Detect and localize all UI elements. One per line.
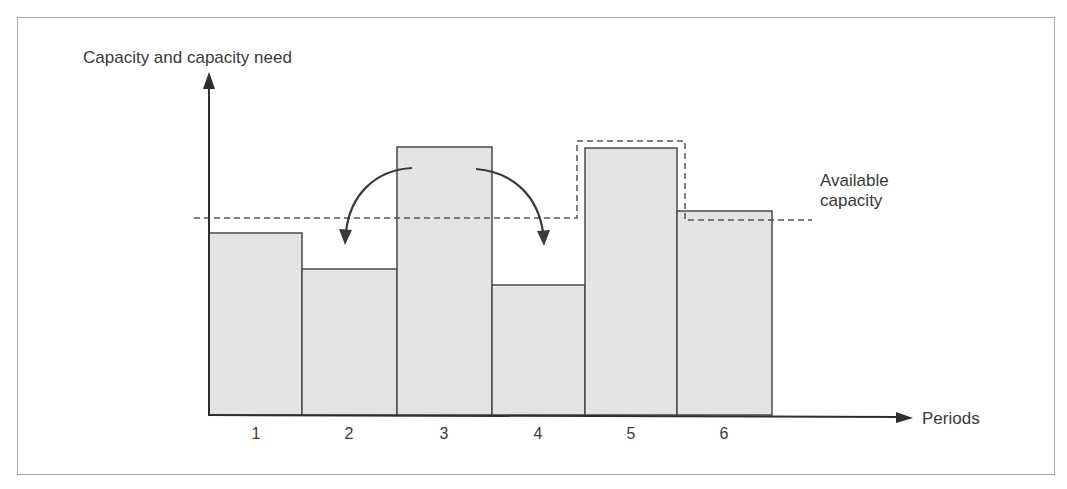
- x-axis-label: Periods: [922, 409, 980, 428]
- capacity-chart: Capacity and capacity need Periods Avail…: [0, 0, 1067, 489]
- y-axis-label: Capacity and capacity need: [83, 48, 292, 67]
- period-label: 3: [440, 425, 449, 442]
- capacity-label-line2: capacity: [820, 191, 883, 210]
- bar-period-4: [492, 285, 585, 415]
- period-tick-labels: 1 2 3 4 5 6: [252, 425, 729, 442]
- bar-period-2: [302, 269, 397, 415]
- arrowhead-left-icon: [339, 229, 352, 245]
- bar-period-3: [397, 147, 492, 415]
- bars: [209, 147, 772, 415]
- bar-period-5: [585, 148, 677, 415]
- bar-period-6: [677, 211, 772, 415]
- x-axis: [208, 415, 898, 417]
- x-axis-arrowhead-icon: [896, 412, 913, 423]
- capacity-label-line1: Available: [820, 171, 889, 190]
- period-label: 4: [534, 425, 543, 442]
- available-capacity-line: [194, 141, 812, 220]
- period-label: 5: [627, 425, 636, 442]
- y-axis-arrowhead-icon: [203, 72, 215, 89]
- period-label: 6: [720, 425, 729, 442]
- bar-period-1: [209, 233, 302, 415]
- arrowhead-right-icon: [537, 230, 550, 246]
- period-label: 1: [252, 425, 261, 442]
- period-label: 2: [345, 425, 354, 442]
